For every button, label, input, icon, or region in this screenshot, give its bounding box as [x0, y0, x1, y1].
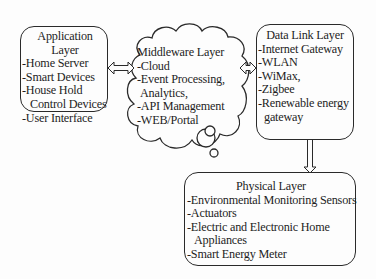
datalink-item: -Zigbee [258, 83, 352, 97]
app-item: -Smart Devices [22, 71, 108, 85]
arrow-app-middleware [108, 62, 134, 74]
app-item: -User Interface [22, 112, 108, 126]
middleware-item: -Event Processing, [137, 73, 225, 87]
application-layer-text: Application Layer -Home Server -Smart De… [22, 30, 108, 125]
datalink-item: -WLAN [258, 56, 352, 70]
physical-item: -Electric and Electronic Home [187, 221, 355, 235]
application-layer-title-2: Layer [22, 44, 108, 58]
middleware-layer-text: Middleware Layer -Cloud -Event Processin… [137, 46, 225, 128]
physical-item: -Environmental Monitoring Sensors [187, 194, 355, 208]
physical-item: Appliances [187, 234, 355, 248]
application-layer-title-1: Application [22, 30, 108, 44]
app-item: -House Hold [22, 84, 108, 98]
physical-layer-title: Physical Layer [187, 180, 355, 194]
data-link-layer-text: Data Link Layer -Internet Gateway -WLAN … [258, 29, 352, 124]
datalink-item: -WiMax, [258, 70, 352, 84]
datalink-item: gateway [258, 111, 352, 125]
data-link-layer-title: Data Link Layer [258, 29, 352, 43]
middleware-item: Analytics, [137, 87, 225, 101]
physical-item: -Smart Energy Meter [187, 248, 355, 262]
middleware-item: -API Management [137, 100, 225, 114]
datalink-item: -Internet Gateway [258, 43, 352, 57]
middleware-layer-title: Middleware Layer [137, 46, 225, 60]
app-item: Control Devices [22, 98, 108, 112]
physical-item: -Actuators [187, 207, 355, 221]
app-item: -Home Server [22, 57, 108, 71]
datalink-item: -Renewable energy [258, 97, 352, 111]
physical-layer-text: Physical Layer -Environmental Monitoring… [187, 180, 355, 262]
middleware-item: -WEB/Portal [137, 114, 225, 128]
middleware-item: -Cloud [137, 60, 225, 74]
